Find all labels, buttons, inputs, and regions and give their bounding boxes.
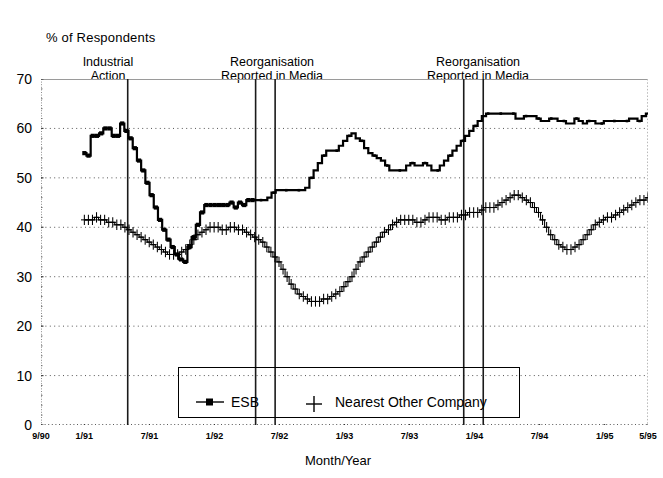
legend: ESB Nearest Other Company bbox=[178, 367, 520, 418]
series-esb-marker bbox=[285, 189, 288, 192]
series-esb-marker bbox=[474, 125, 477, 128]
x-tick-label: 7/94 bbox=[517, 431, 563, 441]
series-esb-marker bbox=[107, 126, 111, 130]
series-esb-marker bbox=[260, 199, 263, 202]
x-tick-label: 1/92 bbox=[191, 431, 237, 441]
x-tick-label: 1/93 bbox=[322, 431, 368, 441]
series-nearest-other-company-line bbox=[84, 195, 648, 301]
y-axis-title: % of Respondents bbox=[46, 30, 155, 45]
series-esb-marker bbox=[251, 198, 255, 202]
series-esb-marker bbox=[133, 146, 137, 150]
x-tick-label: 7/92 bbox=[256, 431, 302, 441]
series-esb-marker bbox=[361, 139, 364, 142]
series-esb-marker bbox=[208, 203, 212, 207]
series-esb-marker bbox=[575, 117, 578, 120]
series-esb-marker bbox=[499, 112, 502, 115]
legend-entry-nearest-other-company: Nearest Other Company bbox=[299, 394, 487, 410]
series-esb-marker bbox=[217, 203, 221, 207]
annotation-line-1: Reorganisation bbox=[197, 55, 347, 69]
series-esb-marker bbox=[95, 134, 99, 138]
series-esb-marker bbox=[512, 112, 515, 115]
x-tick-label: 1/95 bbox=[582, 431, 628, 441]
series-esb-marker bbox=[238, 200, 242, 204]
series-esb-marker bbox=[487, 112, 490, 115]
series-esb-marker bbox=[323, 154, 326, 157]
y-tick-label: 0 bbox=[2, 418, 32, 432]
legend-label: Nearest Other Company bbox=[335, 394, 487, 410]
x-tick-label: 1/94 bbox=[452, 431, 498, 441]
series-esb-marker bbox=[124, 129, 128, 133]
series-esb-marker bbox=[141, 168, 145, 172]
series-esb-marker bbox=[196, 223, 200, 227]
series-esb-marker bbox=[613, 120, 616, 123]
series-esb-marker bbox=[91, 134, 95, 138]
x-tick-label: 7/93 bbox=[387, 431, 433, 441]
series-esb-marker bbox=[436, 169, 439, 172]
legend-entry-esb: ESB bbox=[195, 394, 259, 410]
series-esb bbox=[82, 112, 648, 264]
series-esb-marker bbox=[638, 120, 641, 123]
series-esb-marker bbox=[588, 120, 591, 123]
series-esb-marker bbox=[229, 200, 233, 204]
series-esb-marker bbox=[537, 117, 540, 120]
y-tick-label: 40 bbox=[2, 220, 32, 234]
series-esb-marker bbox=[563, 120, 566, 123]
annotation-line-1: Industrial bbox=[62, 55, 154, 69]
x-tick-label: 9/90 bbox=[18, 431, 64, 441]
series-esb-marker bbox=[310, 177, 313, 180]
series-esb-marker bbox=[145, 181, 149, 185]
series-esb-marker bbox=[449, 154, 452, 157]
series-esb-marker bbox=[298, 189, 301, 192]
series-esb-marker bbox=[246, 198, 250, 202]
series-esb-marker bbox=[204, 203, 208, 207]
series-esb-marker bbox=[183, 260, 187, 264]
series-esb-marker bbox=[200, 210, 204, 214]
y-tick-label: 30 bbox=[2, 270, 32, 284]
series-esb-marker bbox=[120, 121, 124, 125]
series-esb-marker bbox=[179, 257, 183, 261]
series-esb-marker bbox=[112, 134, 116, 138]
y-tick-label: 20 bbox=[2, 319, 32, 333]
series-esb-marker bbox=[99, 131, 103, 135]
series-esb-marker bbox=[386, 164, 389, 167]
series-esb-marker bbox=[626, 120, 629, 123]
series-esb-marker bbox=[242, 203, 246, 207]
series-esb-marker bbox=[462, 139, 465, 142]
series-esb-marker bbox=[525, 115, 528, 118]
series-esb-marker bbox=[225, 203, 229, 207]
x-tick-label: 7/91 bbox=[126, 431, 172, 441]
square-line-marker-icon bbox=[195, 395, 225, 409]
series-esb-marker bbox=[335, 149, 338, 152]
series-esb-marker bbox=[150, 193, 154, 197]
y-tick-label: 50 bbox=[2, 171, 32, 185]
series-esb-marker bbox=[348, 135, 351, 138]
series-esb-marker bbox=[399, 169, 402, 172]
y-tick-label: 10 bbox=[2, 369, 32, 383]
series-esb-marker bbox=[550, 117, 553, 120]
series-esb-marker bbox=[116, 134, 120, 138]
x-axis-title: Month/Year bbox=[305, 453, 371, 468]
series-esb-marker bbox=[82, 151, 86, 155]
series-esb-marker bbox=[373, 154, 376, 157]
series-esb-marker bbox=[221, 203, 225, 207]
series-esb-marker bbox=[272, 191, 275, 194]
series-esb-marker bbox=[171, 245, 175, 249]
series-esb-marker bbox=[213, 203, 217, 207]
series-esb-marker bbox=[424, 162, 427, 165]
legend-label: ESB bbox=[231, 394, 259, 410]
x-tick-label: 5/95 bbox=[625, 431, 663, 441]
y-tick-label: 60 bbox=[2, 121, 32, 135]
plus-marker-icon bbox=[299, 395, 329, 409]
series-esb-marker bbox=[86, 154, 90, 158]
series-esb-marker bbox=[103, 126, 107, 130]
series-esb-marker bbox=[234, 205, 238, 209]
series-esb-marker bbox=[158, 218, 162, 222]
series-esb-marker bbox=[154, 205, 158, 209]
series-esb-marker bbox=[129, 136, 133, 140]
series-nearest-other-company bbox=[81, 190, 648, 307]
chart-figure: % of Respondents Industrial Action Reorg… bbox=[0, 0, 663, 478]
series-esb-marker bbox=[600, 122, 603, 125]
series-esb-marker bbox=[166, 238, 170, 242]
series-esb-marker bbox=[137, 158, 141, 162]
annotation-line-1: Reorganisation bbox=[403, 55, 553, 69]
